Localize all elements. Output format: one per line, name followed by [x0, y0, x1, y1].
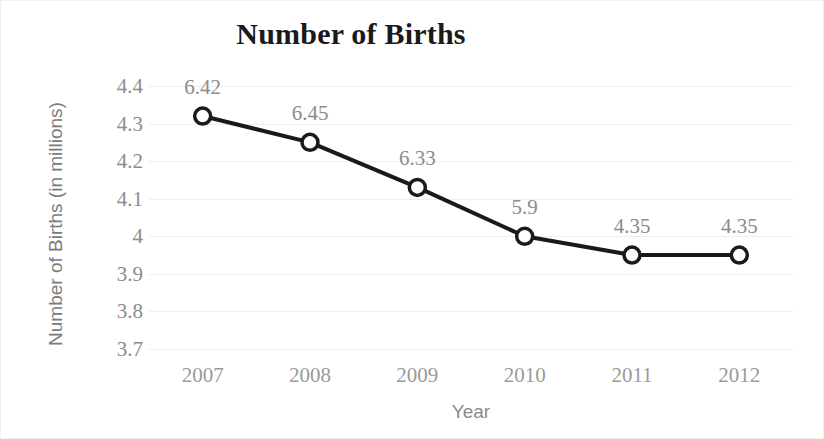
x-axis-tick-label: 2007	[158, 363, 248, 388]
x-axis-tick-label: 2012	[694, 363, 784, 388]
y-axis-tick-label: 4.3	[93, 111, 143, 136]
y-axis-tick-label: 3.8	[93, 299, 143, 324]
y-axis-tick-label: 3.7	[93, 337, 143, 362]
data-point-marker	[731, 247, 747, 263]
data-point-marker	[409, 179, 425, 195]
y-axis-tick-label: 4.1	[93, 186, 143, 211]
x-axis-tick-label: 2009	[372, 363, 462, 388]
data-point-label: 5.9	[512, 195, 538, 220]
data-point-marker	[195, 108, 211, 124]
y-axis-tick-label-group: 4.44.34.24.143.93.83.7	[93, 71, 143, 365]
y-axis-tick-label: 3.9	[93, 261, 143, 286]
x-axis-tick-label-group: 200720082009201020112012	[149, 363, 793, 397]
x-axis-tick-label: 2010	[480, 363, 570, 388]
y-axis-tick-label: 4	[93, 224, 143, 249]
data-point-marker	[624, 247, 640, 263]
gridline	[149, 349, 793, 350]
data-point-marker	[302, 134, 318, 150]
data-point-label: 4.35	[721, 214, 758, 239]
x-axis-tick-label: 2011	[587, 363, 677, 388]
x-axis-tick-label: 2008	[265, 363, 355, 388]
y-axis-title: Number of Births (in millions)	[45, 74, 67, 374]
data-point-label: 6.33	[399, 146, 436, 171]
data-point-marker	[517, 228, 533, 244]
data-point-label: 4.35	[614, 214, 651, 239]
series-polyline	[203, 116, 740, 255]
birth-statistics-line-chart: Number of Births Number of Births (in mi…	[0, 0, 824, 439]
y-axis-tick-label: 4.4	[93, 74, 143, 99]
data-point-label: 6.45	[292, 101, 329, 126]
data-point-label: 6.42	[184, 75, 221, 100]
data-series-line	[149, 86, 793, 349]
x-axis-title: Year	[149, 401, 793, 423]
chart-title: Number of Births	[1, 17, 701, 51]
y-axis-tick-label: 4.2	[93, 149, 143, 174]
plot-area: 6.426.456.335.94.354.35	[149, 86, 793, 349]
